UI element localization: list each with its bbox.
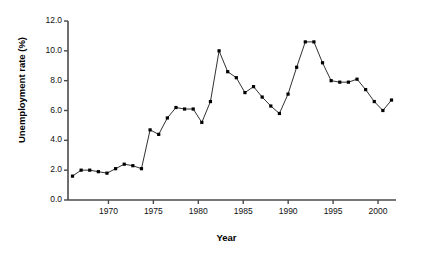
x-tick-label: 1980 [181,206,215,216]
unemployment-rate-chart: Unemployment rate (%) 0.02.04.06.08.010.… [0,0,430,260]
data-point-marker [269,104,272,107]
data-point-marker [166,116,169,119]
data-point-marker [252,85,255,88]
data-point-marker [123,163,126,166]
data-point-marker [330,79,333,82]
data-point-marker [304,40,307,43]
data-point-marker [105,172,108,175]
data-point-marker [321,61,324,64]
x-tick-label: 1985 [226,206,260,216]
data-point-marker [312,40,315,43]
data-point-marker [295,66,298,69]
data-point-marker [381,109,384,112]
data-point-marker [355,78,358,81]
data-point-marker [148,128,151,131]
data-point-marker [217,49,220,52]
x-tick-label: 1995 [316,206,350,216]
x-tick-label: 1970 [91,206,125,216]
x-tick-label: 1975 [136,206,170,216]
data-point-marker [140,167,143,170]
data-point-marker [286,92,289,95]
data-point-marker [390,98,393,101]
data-point-marker [209,100,212,103]
data-series-line [72,42,391,176]
data-point-marker [192,107,195,110]
data-point-marker [80,169,83,172]
data-series-markers [71,40,393,177]
axes [68,21,396,200]
data-point-marker [226,70,229,73]
data-point-marker [261,95,264,98]
data-point-marker [97,170,100,173]
data-point-marker [174,106,177,109]
data-point-marker [278,112,281,115]
x-tick-label: 1990 [271,206,305,216]
x-tick-label: 2000 [361,206,395,216]
data-point-marker [235,76,238,79]
data-point-marker [373,100,376,103]
x-axis-title: Year [68,232,385,243]
data-point-marker [243,91,246,94]
data-point-marker [183,107,186,110]
data-point-marker [200,121,203,124]
data-point-marker [157,133,160,136]
data-point-marker [71,175,74,178]
data-point-marker [114,167,117,170]
plot-area [0,0,430,260]
data-point-marker [347,81,350,84]
data-point-marker [338,81,341,84]
data-point-marker [364,88,367,91]
data-point-marker [131,164,134,167]
data-point-marker [88,169,91,172]
